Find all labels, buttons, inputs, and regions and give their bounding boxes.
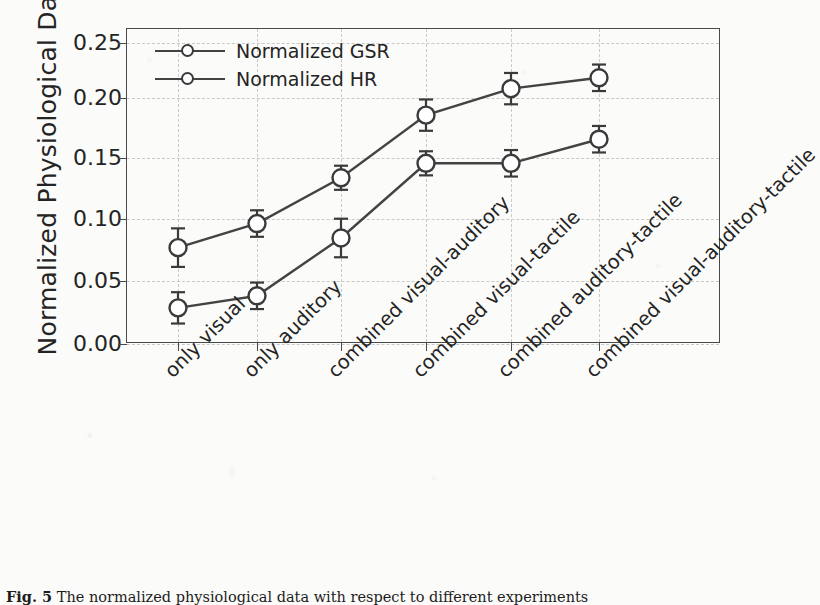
figure-number: Fig. 5 — [6, 588, 52, 605]
figure-caption: Fig. 5 The normalized physiological data… — [6, 588, 746, 605]
x-tick-label-only-visual: only visual — [160, 292, 250, 382]
x-tick-label-combined-visual-tactile: combined visual-tactile — [408, 205, 585, 382]
x-tick-label-combined-auditory-tactile: combined auditory-tactile — [493, 188, 687, 382]
figure-caption-text: The normalized physiological data with r… — [57, 589, 589, 605]
